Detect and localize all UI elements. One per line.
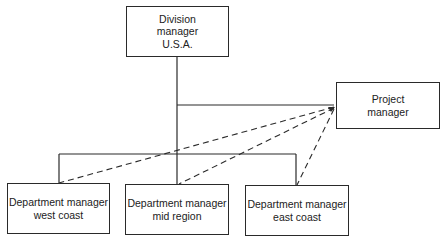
project-to-mid-dashed-line: [179, 108, 334, 184]
project-manager-line1: Project: [372, 93, 405, 106]
division-manager-line3: U.S.A.: [162, 38, 192, 51]
division-manager-line1: Division: [159, 13, 196, 26]
project-to-west-dashed-line: [59, 107, 334, 183]
division-manager-line2: manager: [157, 25, 198, 38]
dept-mid-line2: mid region: [152, 210, 201, 223]
org-chart: Division manager U.S.A. Project manager …: [0, 0, 445, 245]
division-manager-box: Division manager U.S.A.: [126, 6, 229, 57]
dept-west-line1: Department manager: [9, 196, 108, 209]
project-to-east-dashed-line: [297, 109, 334, 185]
project-manager-box: Project manager: [336, 82, 440, 129]
dept-west-line2: west coast: [34, 209, 84, 222]
project-manager-line2: manager: [367, 106, 408, 119]
dept-mid-line1: Department manager: [127, 197, 226, 210]
dept-east-line1: Department manager: [247, 198, 346, 211]
dept-mid-region-box: Department manager mid region: [125, 184, 229, 235]
dept-east-coast-box: Department manager east coast: [245, 185, 349, 236]
dept-east-line2: east coast: [273, 211, 321, 224]
dept-west-coast-box: Department manager west coast: [7, 183, 110, 234]
